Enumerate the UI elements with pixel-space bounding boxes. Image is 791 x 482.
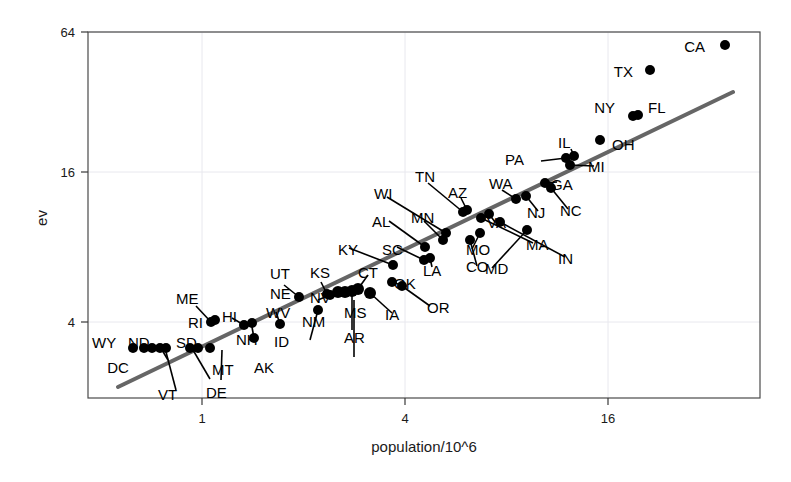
label-in: IN [558,250,573,267]
label-ar: AR [344,329,365,346]
point-oh[interactable] [595,135,605,145]
label-ak: AK [254,359,274,376]
label-ma: MA [526,236,549,253]
point-mi[interactable] [565,160,575,170]
label-mn: MN [411,209,434,226]
point-mn[interactable] [438,235,448,245]
label-wy: WY [92,334,116,351]
point-ky[interactable] [388,260,398,270]
label-az: AZ [448,184,467,201]
label-ne: NE [270,285,291,302]
label-ky: KY [338,241,358,258]
label-nj: NJ [527,204,545,221]
ytick-label-64: 64 [61,25,75,40]
point-al[interactable] [420,242,430,252]
label-mi: MI [588,158,605,175]
label-ut: UT [270,265,290,282]
label-me: ME [176,290,199,307]
point-az[interactable] [462,205,472,215]
label-va: VA [487,214,506,231]
label-dc: DC [107,359,129,376]
point-ne[interactable] [294,292,304,302]
label-ms: MS [344,304,367,321]
ytick-label-16: 16 [61,165,75,180]
label-mo: MO [466,241,490,258]
label-il: IL [558,134,571,151]
label-mt: MT [212,361,234,378]
label-pa: PA [505,151,524,168]
label-la: LA [423,262,441,279]
point-ia[interactable] [364,287,376,299]
label-hi: HI [222,308,237,325]
label-wi: WI [374,185,392,202]
point-tx[interactable] [645,65,655,75]
label-sc: SC [382,241,403,258]
label-ga: GA [551,176,573,193]
point-me[interactable] [210,315,220,325]
scatter-plot-figure: 64 16 4 1 4 16 ev population/10^6 [0,0,791,482]
point-wa[interactable] [511,194,521,204]
label-fl: FL [648,99,666,116]
label-ct: CT [358,264,378,281]
point-ma[interactable] [476,213,486,223]
label-sd: SD [176,334,197,351]
label-ia: IA [385,306,399,323]
point-ca[interactable] [720,40,730,50]
label-ok: OK [394,275,416,292]
label-or: OR [427,299,450,316]
label-wa: WA [489,175,513,192]
label-md: MD [485,260,508,277]
point-nj[interactable] [521,191,531,201]
label-nh: NH [236,331,258,348]
point-md[interactable] [522,225,532,235]
x-axis-title: population/10^6 [371,438,476,455]
label-al: AL [372,213,390,230]
xtick-label-16: 16 [601,411,615,426]
label-ks: KS [310,264,330,281]
point-mo[interactable] [475,228,485,238]
label-nd: ND [128,334,150,351]
ytick-label-4: 4 [68,315,75,330]
label-ri: RI [188,314,203,331]
point-mt[interactable] [205,343,215,353]
xtick-label-4: 4 [401,411,408,426]
label-tx: TX [614,63,633,80]
label-de: DE [206,384,227,401]
label-id: ID [274,333,289,350]
label-nm: NM [302,313,325,330]
point-fl[interactable] [633,110,643,120]
label-ny: NY [594,99,615,116]
y-axis-title: ev [33,210,50,226]
label-wv: WV [266,304,290,321]
label-ca: CA [684,38,705,55]
label-co: CO [466,258,489,275]
label-vt: VT [158,386,177,403]
xtick-label-1: 1 [198,411,205,426]
label-nv: NV [310,289,331,306]
label-oh: OH [612,136,635,153]
label-nc: NC [560,202,582,219]
point-nh[interactable] [247,318,257,328]
label-tn: TN [415,168,435,185]
